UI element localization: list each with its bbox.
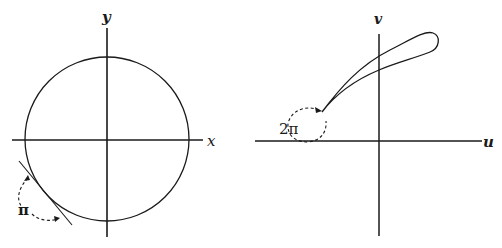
arrowhead-icon	[315, 107, 322, 113]
arrowhead-icon	[24, 175, 30, 181]
two-pi-label: 2π	[279, 120, 299, 138]
v-axis-label: v	[374, 11, 383, 27]
pi-label: π	[18, 201, 29, 219]
image-loop-curve	[322, 32, 438, 112]
y-axis-label: y	[101, 8, 112, 26]
u-axis-label: u	[483, 133, 494, 151]
diagram-canvas: π y x 2π v u	[0, 0, 502, 248]
x-axis-label: x	[207, 132, 216, 150]
right-figure-w-plane: 2π v u	[255, 11, 494, 236]
left-figure-z-plane: π y x	[12, 8, 216, 237]
arrowhead-icon	[54, 216, 60, 222]
